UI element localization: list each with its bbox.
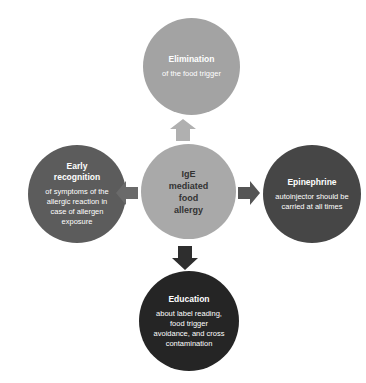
- node-desc: of symptoms of the allergic reaction in …: [40, 187, 114, 227]
- arrow-down-icon: [172, 246, 198, 270]
- node-center: IgE mediated food allergy: [141, 144, 236, 239]
- arrow-left-icon: [116, 181, 138, 205]
- node-title: Education: [168, 294, 209, 305]
- node-early-recognition: Early recognition of symptoms of the all…: [28, 145, 126, 243]
- node-title: Elimination: [169, 54, 215, 65]
- center-title: IgE mediated food allergy: [164, 168, 214, 216]
- arrow-right-icon: [238, 181, 260, 205]
- node-desc: about label reading, food trigger avoida…: [151, 309, 227, 349]
- node-title: Early recognition: [47, 161, 107, 183]
- arrow-up-icon: [170, 119, 196, 141]
- node-desc: autoinjector should be carried at all ti…: [275, 192, 349, 212]
- node-epinephrine: Epinephrine autoinjector should be carri…: [263, 145, 361, 243]
- node-desc: of the food trigger: [162, 69, 221, 79]
- node-elimination: Elimination of the food trigger: [143, 18, 240, 115]
- node-education: Education about label reading, food trig…: [139, 271, 239, 371]
- node-title: Epinephrine: [287, 177, 336, 188]
